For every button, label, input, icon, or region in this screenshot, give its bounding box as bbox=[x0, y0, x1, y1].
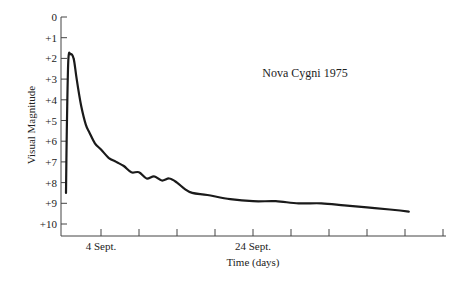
chart-title: Nova Cygni 1975 bbox=[262, 66, 347, 80]
y-tick-label: +7 bbox=[45, 156, 57, 168]
y-tick-label: +1 bbox=[45, 32, 57, 44]
x-tick-label: 4 Sept. bbox=[86, 240, 117, 252]
light-curve-line bbox=[66, 53, 409, 212]
x-axis-label: Time (days) bbox=[226, 256, 279, 269]
y-tick-label: +6 bbox=[45, 135, 57, 147]
y-tick-label: +9 bbox=[45, 197, 57, 209]
x-tick-label: 24 Sept. bbox=[235, 240, 271, 252]
y-tick-label: +2 bbox=[45, 52, 57, 64]
y-tick-label: 0 bbox=[52, 11, 58, 23]
y-tick-label: +10 bbox=[40, 218, 58, 230]
y-tick-label: +3 bbox=[45, 73, 57, 85]
y-tick-label: +5 bbox=[45, 115, 57, 127]
y-tick-label: +4 bbox=[45, 94, 57, 106]
y-axis: 0+1+2+3+4+5+6+7+8+9+10 bbox=[40, 11, 67, 236]
y-tick-label: +8 bbox=[45, 177, 57, 189]
light-curve-chart: 0+1+2+3+4+5+6+7+8+9+10 4 Sept.24 Sept. N… bbox=[0, 0, 460, 282]
x-axis: 4 Sept.24 Sept. bbox=[61, 229, 446, 252]
y-axis-label: Visual Magnitude bbox=[25, 86, 37, 165]
